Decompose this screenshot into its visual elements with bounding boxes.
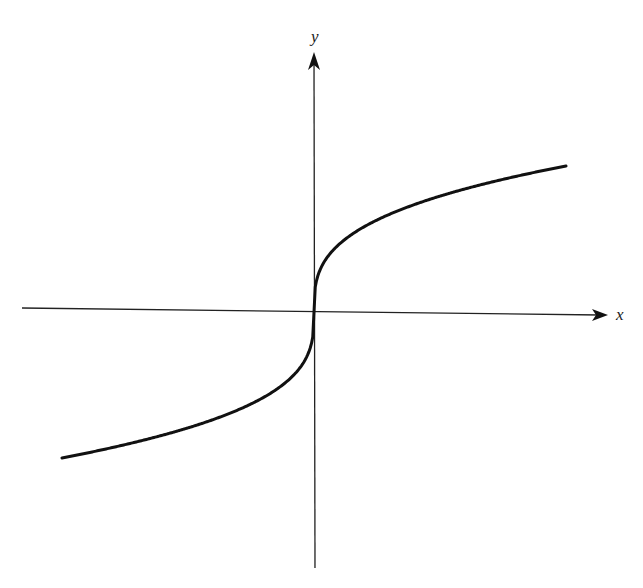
x-axis [22, 308, 600, 315]
y-axis-label: y [309, 27, 319, 46]
cube-root-graph: x y [0, 0, 643, 588]
x-axis-label: x [615, 305, 624, 324]
